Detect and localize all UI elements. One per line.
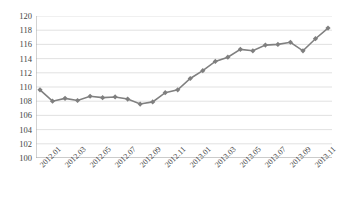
data-point-marker (75, 98, 80, 103)
data-point-marker (250, 48, 255, 53)
y-axis-tick-label: 120 (6, 11, 32, 21)
data-point-marker (87, 94, 92, 99)
y-axis-tick-label: 102 (6, 139, 32, 149)
data-point-marker (275, 42, 280, 47)
y-axis-tick-label: 116 (6, 39, 32, 49)
data-series-line (40, 28, 328, 104)
data-point-marker (113, 94, 118, 99)
y-axis-tick-label: 118 (6, 25, 32, 35)
y-axis-tick-label: 100 (6, 153, 32, 163)
data-point-marker (100, 95, 105, 100)
y-axis-tick-label: 108 (6, 96, 32, 106)
y-axis-tick-label: 110 (6, 82, 32, 92)
data-point-marker (62, 96, 67, 101)
data-series-markers (37, 25, 330, 106)
y-axis-tick-label: 114 (6, 54, 32, 64)
gridlines (36, 16, 332, 158)
plot-area (36, 16, 332, 158)
data-point-marker (138, 101, 143, 106)
y-axis-tick-label: 106 (6, 110, 32, 120)
data-point-marker (263, 43, 268, 48)
line-chart: 100102104106108110112114116118120 2012.0… (0, 0, 342, 206)
y-axis-tick-label: 104 (6, 125, 32, 135)
y-axis-tick-label: 112 (6, 68, 32, 78)
